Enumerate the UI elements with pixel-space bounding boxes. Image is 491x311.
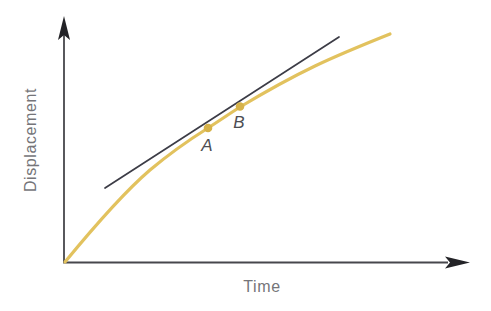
y-axis-label: Displacement — [22, 88, 40, 192]
point-b-label: B — [233, 113, 244, 133]
point-a-dot — [204, 124, 213, 133]
point-a-label: A — [201, 136, 212, 156]
figure-canvas: Displacement Time A B — [0, 0, 491, 311]
graph-svg — [0, 0, 491, 311]
axes-lines — [64, 32, 448, 263]
displacement-curve — [65, 34, 390, 262]
secant-line — [105, 37, 339, 188]
x-axis-arrowhead-icon — [445, 257, 470, 269]
x-axis-label: Time — [243, 278, 280, 296]
point-b-dot — [236, 102, 245, 111]
